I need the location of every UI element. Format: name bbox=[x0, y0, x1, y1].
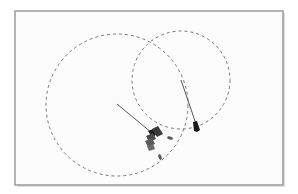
encounter-diagram bbox=[0, 0, 298, 194]
diagram-frame bbox=[15, 11, 283, 185]
